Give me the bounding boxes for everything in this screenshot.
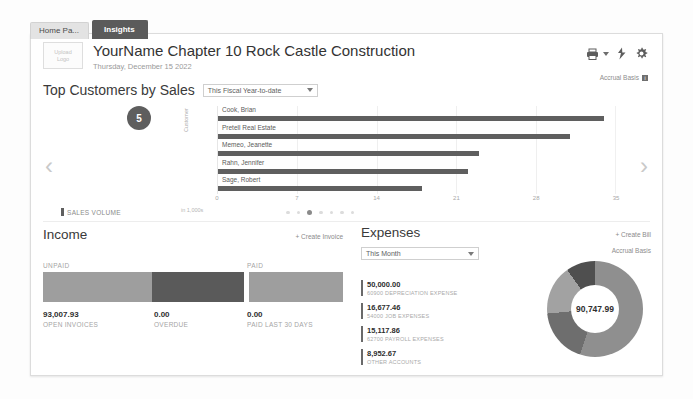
expenses-total: 90,747.99 [571,285,619,333]
create-invoice-link[interactable]: + Create Invoice [295,233,343,240]
pagination-dot[interactable] [330,211,334,215]
overdue-amount: 0.00 [154,310,247,319]
income-values: 93,007.93 OPEN INVOICES 0.00 OVERDUE 0.0… [43,310,343,328]
pagination-dot[interactable] [286,211,290,215]
chart-bar-label: Sage, Robert [222,176,260,183]
upload-logo-button[interactable]: Upload Logo [43,42,83,69]
pagination-dot[interactable] [307,210,312,215]
chart-bar-label: Cook, Brian [222,106,256,113]
expense-account-name: 60900 DEPRECIATION EXPENSE [367,290,457,296]
expense-amount: 50,000.00 [367,280,457,289]
top-customers-title: Top Customers by Sales [43,82,195,98]
overdue-label: OVERDUE [154,321,247,328]
pagination-dot[interactable] [351,211,355,215]
legend-label-sales-volume: SALES VOLUME [67,209,121,216]
chevron-down-icon [468,252,474,256]
top-customers-period-value: This Fiscal Year-to-date [208,87,282,94]
income-title: Income [43,227,87,242]
expenses-title: Expenses [361,225,420,240]
expense-color-tick [361,349,363,365]
expense-account-name: OTHER ACCOUNTS [367,359,421,365]
chart-x-tick-label: 14 [373,195,380,201]
chart-x-axis-ticks: 0714212835 [217,195,616,205]
printer-icon[interactable] [586,48,599,60]
chart-bar[interactable] [218,151,479,156]
open-invoices-amount: 93,007.93 [43,310,154,319]
upload-logo-line2: Logo [44,56,82,63]
chart-bar-label: Rahn, Jennifer [222,159,264,166]
paid-label: PAID [247,262,343,269]
expense-amount: 8,952.67 [367,349,421,358]
tab-home-page[interactable]: Home Pa... [30,22,89,39]
top-customers-chart: Customer Cook, BrianPretell Real EstateM… [181,106,616,216]
section-divider [43,221,650,222]
legend-swatch-sales-volume [61,208,64,216]
chart-y-axis-title: Customer [183,108,189,132]
income-header: Income + Create Invoice [43,227,343,242]
expense-account-name: 62700 PAYROLL EXPENSES [367,336,444,342]
accrual-basis-top: Accrual Basis i [600,74,648,81]
expense-color-tick [361,280,363,296]
chart-plot-area: Cook, BrianPretell Real EstateMemeo, Jea… [217,106,616,194]
customer-count-badge: 5 [127,106,151,130]
open-invoices-stat: 93,007.93 OPEN INVOICES [43,310,154,328]
income-panel: Income + Create Invoice UNPAID PAID 93,0… [43,227,343,328]
income-bar-labels: UNPAID PAID [43,262,343,269]
pagination-dot[interactable] [319,211,323,215]
chart-x-tick-label: 7 [295,195,298,201]
chart-x-tick-label: 21 [453,195,460,201]
chart-bar-row: Pretell Real Estate [218,124,615,142]
accrual-basis-expenses-label: Accrual Basis [612,247,651,254]
print-dropdown-caret-icon[interactable] [603,52,609,56]
income-bar-segment-overdue[interactable] [152,272,243,302]
expenses-donut-chart: 90,747.99 [547,261,643,357]
chart-bar[interactable] [218,169,468,174]
header-icon-group [586,47,648,60]
unpaid-label: UNPAID [43,262,247,269]
chevron-left-icon[interactable]: ‹ [45,154,53,178]
accrual-basis-top-label: Accrual Basis [600,74,639,81]
paid-last-30-amount: 0.00 [247,310,343,319]
lightning-refresh-icon[interactable] [616,47,628,60]
gear-icon[interactable] [635,47,648,60]
chart-bar[interactable] [218,134,570,139]
expense-account-name: 54000 JOB EXPENSES [367,313,429,319]
insights-dashboard-screen: Home Pa... Insights Upload Logo YourName… [0,0,693,399]
tab-strip: Home Pa... Insights [30,20,148,39]
expense-color-tick [361,303,363,319]
top-customers-period-select[interactable]: This Fiscal Year-to-date [203,84,318,97]
top-customers-header: Top Customers by Sales This Fiscal Year-… [43,82,318,98]
chart-bar-row: Memeo, Jeanette [218,141,615,159]
dashboard-card: Upload Logo YourName Chapter 10 Rock Cas… [30,33,663,376]
income-bar [43,272,343,302]
chart-bar[interactable] [218,186,422,191]
expenses-period-value: This Month [366,250,401,257]
info-icon[interactable]: i [642,75,648,81]
company-name: YourName Chapter 10 Rock Castle Construc… [93,42,415,59]
upload-logo-line1: Upload [44,49,82,56]
carousel-pagination-dots[interactable] [286,210,354,215]
expense-color-tick [361,326,363,342]
tab-insights[interactable]: Insights [92,20,148,39]
income-bar-segment-paid[interactable] [249,272,343,302]
pagination-dot[interactable] [297,211,301,215]
chart-bar-label: Memeo, Jeanette [222,141,272,148]
chart-legend: SALES VOLUME [61,208,121,216]
pagination-dot[interactable] [340,211,344,215]
expenses-panel: Expenses + Create Bill Accrual Basis Thi… [361,225,651,372]
chart-x-tick-label: 35 [613,195,620,201]
chart-bar-row: Sage, Robert [218,176,615,194]
chevron-down-icon [307,88,313,92]
chart-bar[interactable] [218,116,604,121]
chart-bar-row: Rahn, Jennifer [218,159,615,177]
create-bill-link[interactable]: + Create Bill [615,231,651,238]
chart-x-axis-unit: in 1,000s [181,207,203,213]
expense-amount: 15,117.86 [367,326,444,335]
chevron-right-icon[interactable]: › [640,154,648,178]
chart-x-tick-label: 0 [215,195,218,201]
expenses-period-select[interactable]: This Month [361,247,479,260]
overdue-stat: 0.00 OVERDUE [154,310,247,328]
chart-x-tick-label: 28 [533,195,540,201]
company-header: Upload Logo YourName Chapter 10 Rock Cas… [43,42,415,71]
income-bar-segment-open[interactable] [43,272,152,302]
